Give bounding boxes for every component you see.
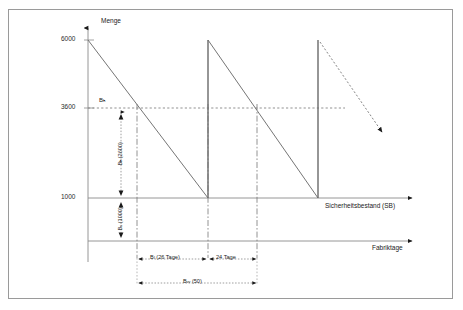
diagram-canvas: Menge 6000 3600 1000 Bₕ Bₕ (2600) Bₛ (10… (0, 0, 463, 310)
secondary-axis-label: Sicherheitsbestand (SB) (325, 203, 395, 210)
y-tick-label-6000: 6000 (61, 36, 75, 43)
horizontal-span-total-label: Bᵥᵥ (50) (183, 279, 202, 285)
vertical-span-lower-wrap: Bₛ (1000) (101, 200, 141, 238)
vertical-span-upper-wrap: Bₕ (2600) (101, 126, 141, 182)
vertical-span-upper-label: Bₕ (2600) (118, 142, 124, 165)
dim-arrow-down-2600 (119, 191, 124, 196)
x-axis-label: Fabriktage (372, 245, 403, 252)
vertical-span-lower-label: Bₛ (1000) (118, 207, 124, 230)
y-axis-label: Menge (101, 18, 121, 25)
forecast-decline-line (320, 42, 382, 132)
horizontal-span-left-label: Bₗ (26 Tage) (150, 255, 180, 261)
horizontal-span-right-label: 24 Tage (216, 255, 236, 261)
y-tick-label-1000: 1000 (61, 194, 75, 201)
stock-level-chart (0, 0, 463, 310)
reorder-point-symbol: Bₕ (99, 97, 105, 103)
y-tick-label-3600: 3600 (61, 104, 75, 111)
dim-arrow-up-2600 (119, 114, 124, 119)
